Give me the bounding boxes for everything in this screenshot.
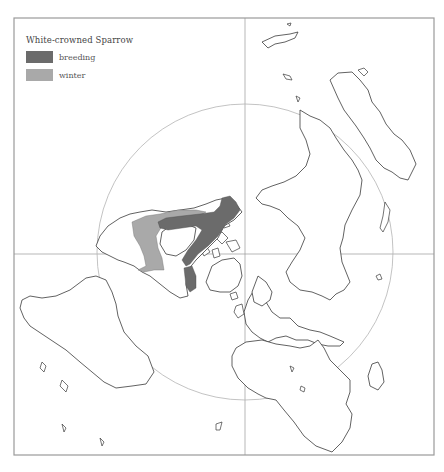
legend-item-breeding: breeding bbox=[26, 51, 133, 63]
island-northeast bbox=[358, 68, 368, 76]
landmass-asia-coast bbox=[256, 110, 362, 300]
landmass-north-islands bbox=[262, 32, 298, 48]
map-legend: White-crowned Sparrow breeding winter bbox=[26, 35, 133, 81]
island-iceland bbox=[230, 292, 238, 300]
legend-item-winter: winter bbox=[26, 69, 133, 81]
island-britain bbox=[234, 304, 244, 318]
landmass-greenland bbox=[206, 258, 242, 292]
breeding-swatch bbox=[26, 51, 53, 63]
island-south bbox=[216, 422, 222, 430]
island-chain-b bbox=[296, 96, 300, 102]
landmass-scandinavia bbox=[252, 276, 272, 306]
island-sa-d bbox=[100, 438, 104, 446]
landmass-africa bbox=[232, 340, 352, 452]
island-east bbox=[376, 274, 382, 280]
legend-label-breeding: breeding bbox=[59, 53, 95, 62]
landmass-south-america bbox=[20, 276, 154, 388]
island-sa-a bbox=[40, 362, 46, 372]
island-japan bbox=[380, 202, 390, 232]
island-sa-b bbox=[60, 380, 68, 392]
island-small-north bbox=[287, 23, 291, 26]
island-sa-c bbox=[62, 424, 66, 432]
legend-label-winter: winter bbox=[59, 71, 85, 80]
island-madagascar bbox=[368, 362, 384, 390]
winter-swatch bbox=[26, 69, 53, 81]
legend-title: White-crowned Sparrow bbox=[26, 35, 133, 45]
island-chain-a bbox=[283, 74, 292, 80]
